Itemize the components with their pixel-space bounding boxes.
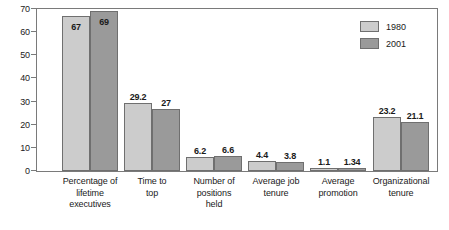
bar-value-label: 1.34 xyxy=(338,157,366,167)
bar-value-label: 23.2 xyxy=(373,106,401,116)
x-axis-label-line: held xyxy=(174,199,254,211)
bar-value-label: 6.2 xyxy=(186,146,214,156)
bar-2001-4 xyxy=(338,168,366,171)
y-axis-tick-label: 70 xyxy=(20,3,36,15)
y-axis-tick-label: 20 xyxy=(20,119,36,131)
y-axis-tick: 60 xyxy=(0,26,36,38)
bar-1980-3 xyxy=(248,161,276,171)
legend: 1980 2001 xyxy=(360,20,406,54)
x-axis-label-line: tenure xyxy=(361,188,441,200)
y-axis-tick: 30 xyxy=(0,96,36,108)
x-axis-label-line: executives xyxy=(50,199,130,211)
y-axis-tick-label: 0 xyxy=(25,165,36,177)
bar-group: 4.43.8 xyxy=(248,9,304,171)
bar-group: 29.227 xyxy=(124,9,180,171)
bar-group: 1.11.34 xyxy=(310,9,366,171)
bar-value-label: 27 xyxy=(152,98,180,108)
bar-1980-5 xyxy=(373,117,401,171)
legend-swatch-2001-icon xyxy=(360,38,379,49)
bar-group: 6.26.6 xyxy=(186,9,242,171)
y-axis-tick-label: 30 xyxy=(20,96,36,108)
legend-label-1980: 1980 xyxy=(386,22,406,32)
x-axis-category-label: Organizationaltenure xyxy=(361,176,441,199)
x-axis-labels: Percentage oflifetimeexecutivesTime toto… xyxy=(37,176,437,228)
y-axis: 010203040506070 xyxy=(0,0,36,180)
y-axis-tick: 20 xyxy=(0,119,36,131)
bar-2001-0 xyxy=(90,11,118,171)
bar-value-label: 1.1 xyxy=(310,157,338,167)
bar-2001-3 xyxy=(276,162,304,171)
bar-1980-0 xyxy=(62,16,90,171)
bar-value-label: 4.4 xyxy=(248,150,276,160)
bar-2001-2 xyxy=(214,156,242,171)
legend-item-2001: 2001 xyxy=(360,37,406,50)
y-axis-tick: 0 xyxy=(0,165,36,177)
y-axis-tick-label: 50 xyxy=(20,49,36,61)
y-axis-tick: 40 xyxy=(0,72,36,84)
bar-value-label: 69 xyxy=(90,17,118,27)
bar-group: 6769 xyxy=(62,9,118,171)
bar-value-label: 6.6 xyxy=(214,145,242,155)
bar-1980-4 xyxy=(310,168,338,171)
legend-label-2001: 2001 xyxy=(386,39,406,49)
bar-1980-1 xyxy=(124,103,152,171)
y-axis-tick: 10 xyxy=(0,142,36,154)
bar-value-label: 3.8 xyxy=(276,151,304,161)
y-axis-tick-label: 40 xyxy=(20,72,36,84)
y-axis-tick: 50 xyxy=(0,49,36,61)
bar-1980-2 xyxy=(186,157,214,171)
y-axis-tick-label: 10 xyxy=(20,142,36,154)
bar-chart: 010203040506070 676929.2276.26.64.43.81.… xyxy=(0,0,449,230)
x-axis-label-line: Organizational xyxy=(361,176,441,188)
y-axis-tick-label: 60 xyxy=(20,26,36,38)
bar-value-label: 29.2 xyxy=(124,92,152,102)
bar-value-label: 67 xyxy=(62,22,90,32)
legend-item-1980: 1980 xyxy=(360,20,406,33)
bar-2001-5 xyxy=(401,122,429,171)
y-axis-tick: 70 xyxy=(0,3,36,15)
bar-2001-1 xyxy=(152,109,180,171)
legend-swatch-1980-icon xyxy=(360,21,379,32)
bar-value-label: 21.1 xyxy=(401,111,429,121)
